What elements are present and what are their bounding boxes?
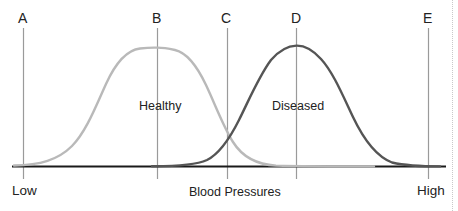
series-annotation-diseased: Diseased [272, 100, 324, 113]
reference-label-e: E [423, 11, 433, 25]
reference-label-d: D [291, 11, 301, 25]
x-axis-title: Blood Pressures [189, 186, 281, 199]
reference-label-b: B [152, 11, 162, 25]
reference-label-c: C [221, 11, 231, 25]
reference-lines [24, 28, 429, 179]
blood-pressure-distribution-figure: A B C D E Healthy Diseased Low Blood Pre… [0, 0, 458, 211]
reference-label-a: A [18, 11, 28, 25]
page-edge-divider [452, 0, 454, 211]
axis-endpoint-high: High [417, 184, 445, 198]
chart-canvas [0, 0, 458, 211]
series-annotation-healthy: Healthy [139, 100, 181, 113]
axis-endpoint-low: Low [12, 184, 37, 198]
